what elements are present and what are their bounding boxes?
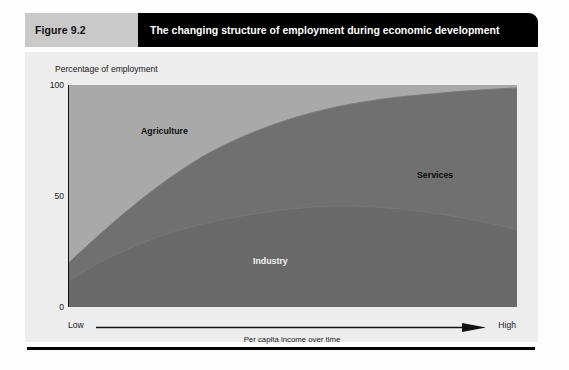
- y-tick-50: 50: [54, 191, 64, 201]
- x-axis-caption: Per capita income over time: [68, 335, 516, 344]
- bottom-divider-rule: [27, 347, 535, 350]
- x-axis-high-label: High: [498, 320, 516, 330]
- figure-number-box: Figure 9.2: [25, 13, 138, 47]
- y-tick-100: 100: [50, 80, 64, 90]
- x-axis-arrow-icon: [96, 323, 486, 332]
- y-tick-0: 0: [59, 302, 64, 312]
- figure-header: Figure 9.2 The changing structure of emp…: [25, 13, 538, 47]
- figure-number-label: Figure 9.2: [25, 24, 86, 36]
- x-axis-arrow-row: Low High: [68, 320, 516, 334]
- stacked-area-chart: [69, 85, 517, 307]
- y-axis-caption: Percentage of employment: [55, 64, 158, 74]
- x-axis-low-label: Low: [68, 320, 84, 330]
- figure-title-bar: The changing structure of employment dur…: [138, 13, 538, 47]
- plot-area: 100 50 0 Agriculture Services Industry: [68, 85, 516, 307]
- figure-root: Figure 9.2 The changing structure of emp…: [0, 0, 569, 370]
- figure-title: The changing structure of employment dur…: [138, 24, 513, 37]
- figure-body-panel: Percentage of employment 100 50 0 Agricu…: [25, 52, 538, 342]
